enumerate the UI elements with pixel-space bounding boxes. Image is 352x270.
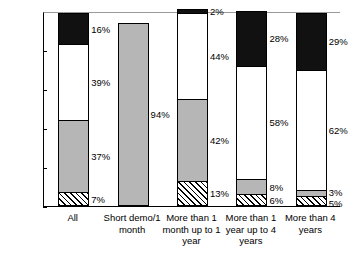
bar-value-label: 42%	[210, 136, 229, 146]
stacked-bar[interactable]	[177, 9, 208, 206]
bar-segment-hatched	[296, 196, 327, 206]
stacked-bar-chart: 0%20%40%60%80%100% 7%37%39%16%94%13%42%4…	[0, 0, 352, 270]
x-axis-category-label: More than 1 year up to 4 years	[221, 212, 280, 247]
bar-slot	[177, 13, 208, 206]
bar-segment-black	[236, 11, 267, 66]
bar-segment-gray	[118, 23, 149, 206]
bar-value-label: 94%	[151, 111, 170, 121]
bar-value-label: 39%	[91, 78, 110, 88]
bar-segment-white	[236, 66, 267, 179]
bar-segment-hatched	[236, 194, 267, 206]
bar-segment-black	[58, 13, 89, 44]
bar-segment-gray	[296, 190, 327, 196]
bar-slot	[118, 13, 149, 206]
x-axis-category-label: All	[43, 212, 102, 224]
bar-value-label: 29%	[329, 37, 348, 47]
bar-segment-gray	[177, 99, 208, 181]
bar-segment-hatched	[58, 192, 89, 206]
bar-segment-black	[296, 13, 327, 70]
bar-segment-white	[296, 70, 327, 191]
x-axis-category-label: Short demo/1 month	[102, 212, 161, 235]
bar-value-label: 13%	[210, 190, 229, 200]
bar-segment-white	[177, 13, 208, 99]
stacked-bar[interactable]	[58, 13, 89, 206]
bar-segment-gray	[236, 179, 267, 195]
bar-value-label: 2%	[210, 7, 224, 17]
bar-value-label: 5%	[329, 199, 343, 209]
bar-value-label: 58%	[269, 118, 288, 128]
bar-slot	[296, 13, 327, 206]
x-axis-category-label: More than 4 years	[281, 212, 340, 235]
bar-segment-white	[58, 44, 89, 120]
bar-value-label: 62%	[329, 126, 348, 136]
bar-value-label: 8%	[269, 183, 283, 193]
bar-segment-black	[177, 9, 208, 13]
stacked-bar[interactable]	[236, 11, 267, 206]
bar-value-label: 7%	[91, 195, 105, 205]
bar-value-label: 37%	[91, 153, 110, 163]
bar-value-label: 6%	[269, 196, 283, 206]
stacked-bar[interactable]	[296, 13, 327, 206]
plot-area	[43, 12, 340, 207]
bar-slot	[58, 13, 89, 206]
x-axis-category-label: More than 1 month up to 1 year	[162, 212, 221, 247]
bar-segment-gray	[58, 120, 89, 192]
bar-value-label: 44%	[210, 52, 229, 62]
y-axis-tick-mark	[43, 207, 47, 208]
stacked-bar[interactable]	[118, 23, 149, 206]
bar-value-label: 3%	[329, 188, 343, 198]
bar-segment-hatched	[177, 181, 208, 206]
bar-value-label: 28%	[269, 35, 288, 45]
bar-value-label: 16%	[91, 25, 110, 35]
bar-slot	[236, 13, 267, 206]
